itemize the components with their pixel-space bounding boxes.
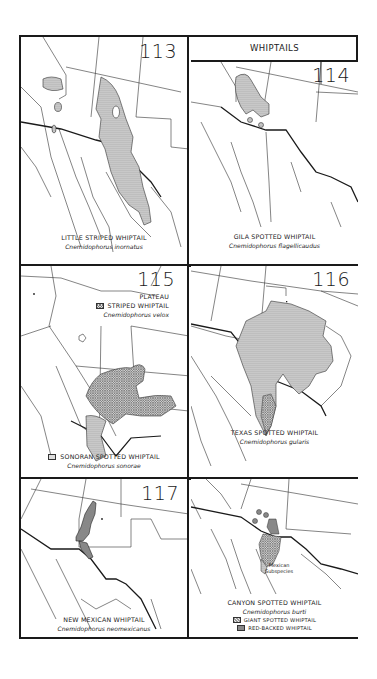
common-name: LITTLE STRIPED WHIPTAIL	[21, 233, 187, 242]
scientific-name: Cnemidophorus inornatus	[21, 242, 187, 251]
map-panel-113: 113 LITTLE STRIPED WHIPTAIL Cnemidophoru…	[21, 37, 189, 265]
common-name: SONORAN SPOTTED WHIPTAIL	[60, 452, 159, 461]
common-name-line1: PLATEAU	[96, 292, 169, 301]
scientific-name: Cnemidophorus neomexicanus	[21, 624, 187, 633]
common-name: TEXAS SPOTTED WHIPTAIL	[191, 428, 358, 437]
range-map-113	[21, 37, 189, 265]
plate-title: WHIPTAILS	[191, 37, 358, 62]
map-panel-116: 116 TEXAS SPOTTED WHIPTAIL Cnemidophorus…	[191, 266, 358, 477]
legend-label: RED-BACKED WHIPTAIL	[248, 624, 312, 632]
plate-title-text: WHIPTAILS	[250, 43, 299, 53]
common-name-line2: STRIPED WHIPTAIL	[107, 301, 169, 310]
scientific-name: Cnemidophorus gularis	[191, 437, 358, 446]
scientific-name: Cnemidophorus burti	[191, 607, 358, 616]
map-panel-117: 117 NEW MEXICAN WHIPTAIL Cnemidophorus n…	[21, 479, 189, 637]
subspecies-label-line2: Subspecies	[265, 568, 293, 574]
scientific-name: Cnemidophorus velox	[96, 310, 169, 319]
crosshatch-swatch-icon	[96, 303, 104, 309]
red-backed-swatch-icon	[237, 625, 245, 631]
common-name: NEW MEXICAN WHIPTAIL	[21, 615, 187, 624]
map-number: 115	[137, 268, 175, 290]
map-panel-115: 115 PLATEAU STRIPED WHIPTAIL Cnemidophor…	[21, 266, 189, 477]
common-name: CANYON SPOTTED WHIPTAIL	[191, 598, 358, 607]
giant-swatch-icon	[233, 617, 241, 623]
map-number: 114	[312, 64, 350, 86]
map-number: 113	[139, 40, 177, 62]
stipple-swatch-icon	[48, 454, 56, 460]
legend-label: GIANT SPOTTED WHIPTAIL	[244, 616, 316, 624]
legend-item-giant: GIANT SPOTTED WHIPTAIL	[191, 616, 358, 624]
scientific-name: Cnemidophorus flagellicaudus	[191, 241, 358, 250]
scientific-name: Cnemidophorus sonorae	[21, 461, 187, 470]
map-number: 117	[141, 482, 179, 504]
map-panel-118: Mexican Subspecies CANYON SPOTTED WHIPTA…	[191, 479, 358, 637]
legend-item-red: RED-BACKED WHIPTAIL	[191, 624, 358, 632]
common-name: GILA SPOTTED WHIPTAIL	[191, 232, 358, 241]
map-number: 116	[312, 268, 350, 290]
map-panel-114: 114 GILA SPOTTED WHIPTAIL Cnemidophorus …	[191, 62, 358, 265]
